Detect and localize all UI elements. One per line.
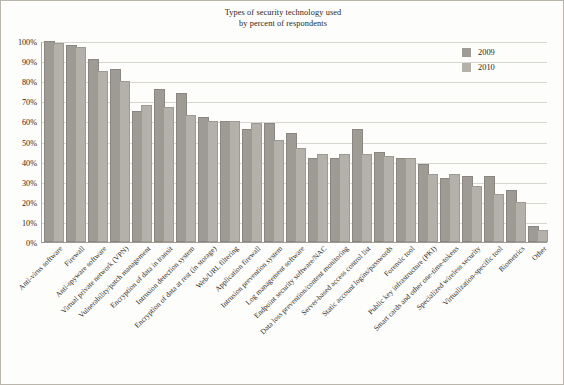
bar-group xyxy=(242,42,260,242)
bar-group xyxy=(286,42,304,242)
bar-2010 xyxy=(383,156,394,242)
y-axis-tick-label: 100% xyxy=(18,38,37,47)
bar-2010 xyxy=(317,154,328,242)
y-axis-tick-label: 90% xyxy=(22,58,37,67)
bar-group xyxy=(506,42,524,242)
bar-2010 xyxy=(405,158,416,242)
bar-2010 xyxy=(449,174,460,242)
bar-group xyxy=(484,42,502,242)
bar-2010 xyxy=(537,230,548,242)
y-axis-tick-label: 80% xyxy=(22,78,37,87)
bar-2010 xyxy=(207,121,218,242)
x-axis-category-label: Anti-virus software xyxy=(17,244,65,292)
x-axis-category-label: Other xyxy=(530,244,548,262)
bar-2010 xyxy=(339,154,350,242)
y-axis-tick-label: 20% xyxy=(22,198,37,207)
y-axis-tick-label: 10% xyxy=(22,218,37,227)
bar-2010 xyxy=(471,186,482,242)
y-axis-tick-labels: 0%10%20%30%40%50%60%70%80%90%100% xyxy=(1,42,41,243)
bar-group xyxy=(66,42,84,242)
bar-group xyxy=(44,42,62,242)
bar-group xyxy=(330,42,348,242)
y-axis-tick-label: 70% xyxy=(22,98,37,107)
bar-group xyxy=(176,42,194,242)
bar-group xyxy=(374,42,392,242)
plot-area xyxy=(41,42,547,243)
y-axis-tick-label: 50% xyxy=(22,138,37,147)
y-axis-tick-label: 60% xyxy=(22,118,37,127)
bar-group xyxy=(418,42,436,242)
bar-group xyxy=(154,42,172,242)
bar-2010 xyxy=(295,148,306,242)
bar-group xyxy=(440,42,458,242)
chart-title-line-2: by percent of respondents xyxy=(1,19,564,30)
bar-group xyxy=(132,42,150,242)
chart-figure: Types of security technology used by per… xyxy=(0,0,564,385)
chart-title-line-1: Types of security technology used xyxy=(1,8,564,19)
bar-2010 xyxy=(273,140,284,243)
bar-2010 xyxy=(75,47,86,242)
bar-group xyxy=(198,42,216,242)
bar-2010 xyxy=(229,121,240,242)
bar-group xyxy=(396,42,414,242)
bar-2010 xyxy=(185,115,196,242)
bar-series-container xyxy=(42,42,547,242)
bar-group xyxy=(88,42,106,242)
bar-2010 xyxy=(119,81,130,242)
bar-2010 xyxy=(97,71,108,242)
bar-2010 xyxy=(361,154,372,242)
bar-2010 xyxy=(251,123,262,242)
y-axis-tick-label: 40% xyxy=(22,158,37,167)
x-axis-category-labels: Anti-virus softwareFirewallAnti-spyware … xyxy=(41,244,547,384)
bar-group xyxy=(308,42,326,242)
bar-2010 xyxy=(427,174,438,242)
bar-2010 xyxy=(53,43,64,242)
bar-group xyxy=(110,42,128,242)
chart-title: Types of security technology used by per… xyxy=(1,8,564,29)
bar-group xyxy=(352,42,370,242)
bar-2010 xyxy=(163,107,174,242)
y-axis-tick-label: 0% xyxy=(26,239,37,248)
bar-group xyxy=(220,42,238,242)
bar-group xyxy=(528,42,546,242)
bar-group xyxy=(462,42,480,242)
y-axis-tick-label: 30% xyxy=(22,178,37,187)
bar-2010 xyxy=(515,202,526,242)
bar-2010 xyxy=(493,194,504,242)
bar-2010 xyxy=(141,105,152,242)
bar-group xyxy=(264,42,282,242)
